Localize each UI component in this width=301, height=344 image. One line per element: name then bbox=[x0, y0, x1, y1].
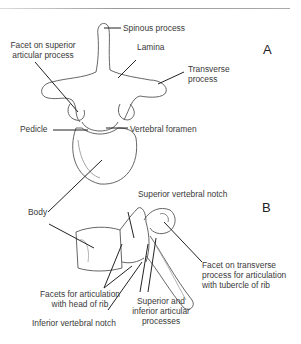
label-superior-vertebral-notch: Superior vertebral notch bbox=[138, 189, 227, 199]
label-spinous-process: Spinous process bbox=[123, 23, 185, 33]
label-inferior-vertebral-notch: Inferior vertebral notch bbox=[32, 318, 116, 328]
label-body: Body bbox=[28, 207, 47, 217]
panel-label-a: A bbox=[263, 42, 272, 57]
label-articular-processes: Superior and inferior articular processe… bbox=[122, 296, 200, 326]
label-lamina: Lamina bbox=[137, 42, 164, 52]
label-pedicle: Pedicle bbox=[20, 124, 47, 134]
label-facets-head-of-rib: Facets for articulation with head of rib bbox=[30, 289, 130, 309]
panel-label-b: B bbox=[262, 200, 271, 215]
label-transverse-process: Transverse process bbox=[188, 64, 230, 84]
label-facet-superior-articular: Facet on superior articular process bbox=[7, 40, 79, 60]
label-facet-transverse-process: Facet on transverse process for articula… bbox=[202, 260, 286, 290]
label-vertebral-foramen: Vertebral foramen bbox=[130, 124, 197, 134]
